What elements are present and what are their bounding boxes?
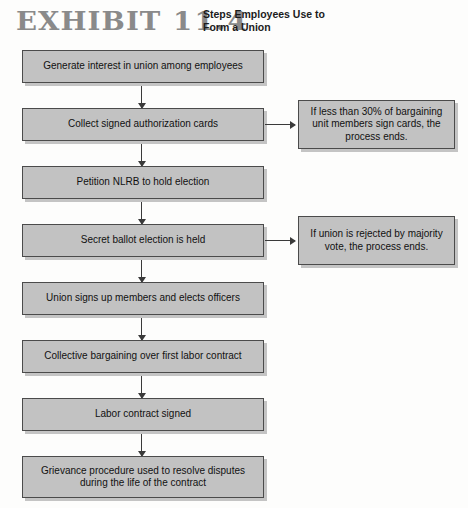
flow-step-label: Generate interest in union among employe… xyxy=(43,60,243,73)
exhibit-page: EXHIBIT11.4 Steps Employees Use to Form … xyxy=(0,0,468,508)
flow-step-generate-interest[interactable]: Generate interest in union among employe… xyxy=(22,50,264,83)
connector-step3-to-step4 xyxy=(141,202,142,224)
connector-step2-to-step3 xyxy=(141,144,142,166)
connector-step6-to-step7 xyxy=(141,376,142,398)
flow-side-note-label: If less than 30% of bargaining unit memb… xyxy=(305,106,448,144)
arrow-head-right-icon xyxy=(290,121,296,129)
connector-step2-to-note1 xyxy=(265,124,295,125)
connector-step7-to-step8 xyxy=(141,434,142,456)
flow-side-note-rejection[interactable]: If union is rejected by majority vote, t… xyxy=(298,216,455,265)
flow-step-collect-cards[interactable]: Collect signed authorization cards xyxy=(22,108,264,141)
flow-step-petition-nlrb[interactable]: Petition NLRB to hold election xyxy=(22,166,264,199)
flow-step-grievance-procedure[interactable]: Grievance procedure used to resolve disp… xyxy=(22,456,264,498)
flow-step-label: Secret ballot election is held xyxy=(81,234,206,247)
flow-step-collective-bargaining[interactable]: Collective bargaining over first labor c… xyxy=(22,340,264,373)
connector-step1-to-step2 xyxy=(141,86,142,108)
flow-step-label: Grievance procedure used to resolve disp… xyxy=(29,465,257,490)
flow-step-secret-ballot[interactable]: Secret ballot election is held xyxy=(22,224,264,257)
flow-step-label: Union signs up members and elects office… xyxy=(46,292,240,305)
union-formation-flowchart: Generate interest in union among employe… xyxy=(0,0,468,508)
flow-step-label: Collective bargaining over first labor c… xyxy=(44,350,241,363)
arrow-head-right-icon xyxy=(290,237,296,245)
flow-side-note-label: If union is rejected by majority vote, t… xyxy=(305,228,448,253)
connector-step4-to-step5 xyxy=(141,260,142,282)
flow-step-label: Petition NLRB to hold election xyxy=(77,176,210,189)
flow-step-label: Collect signed authorization cards xyxy=(68,118,218,131)
flow-step-contract-signed[interactable]: Labor contract signed xyxy=(22,398,264,431)
flow-step-union-signs-members[interactable]: Union signs up members and elects office… xyxy=(22,282,264,315)
connector-step4-to-note2 xyxy=(265,240,295,241)
connector-step5-to-step6 xyxy=(141,318,142,340)
flow-step-label: Labor contract signed xyxy=(95,408,191,421)
flow-side-note-threshold[interactable]: If less than 30% of bargaining unit memb… xyxy=(298,100,455,149)
